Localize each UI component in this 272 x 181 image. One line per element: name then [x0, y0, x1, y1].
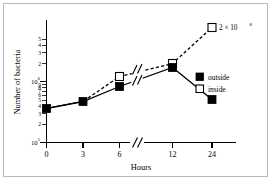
series-line-inside [47, 28, 213, 109]
series-markers-inside [116, 24, 217, 81]
legend-label-outside: outside [208, 73, 230, 82]
legend-entry-inside: inside [196, 85, 226, 94]
x-tick-label-3: 3 [81, 150, 85, 159]
x-axis-title: Hours [131, 163, 151, 172]
x-tick-label-12: 12 [169, 150, 177, 159]
marker-outside-3h [79, 98, 87, 106]
legend-marker-outside [196, 73, 204, 81]
y-axis-minor-ticks-upper [42, 39, 47, 63]
marker-outside-12h [169, 64, 177, 72]
y-decade-exponent-1e6: 6 [38, 76, 41, 81]
x-tick-label-0: 0 [45, 150, 49, 159]
series-break-mark-outside [130, 75, 144, 87]
legend-entry-outside: outside [196, 73, 230, 82]
marker-outside-6h [116, 83, 124, 91]
series-markers-outside [43, 64, 217, 113]
y-decade-exponent-1e5: 5 [38, 137, 41, 142]
x-axis-break-symbol [130, 138, 144, 148]
y-minor-label-3-upper: 3 [38, 50, 41, 56]
annotation-text: 2 × 10 [219, 24, 238, 32]
legend-label-inside: inside [208, 85, 226, 94]
y-minor-label-3: 3 [38, 111, 41, 117]
y-minor-label-2-upper: 2 [38, 61, 41, 67]
chart-legend: outside inside [196, 73, 230, 94]
x-tick-label-24: 24 [208, 150, 216, 159]
marker-inside-6h [116, 73, 124, 81]
y-minor-label-4-upper: 4 [38, 42, 41, 48]
bacteria-growth-chart: 2 3 4 5 6 7 8 9 2 3 4 5 10 5 10 6 [0, 0, 272, 181]
x-axis-tick-labels: 0 3 6 12 24 [45, 150, 217, 159]
y-minor-label-5-upper: 5 [38, 36, 41, 42]
figure-container: 2 3 4 5 6 7 8 9 2 3 4 5 10 5 10 6 [0, 0, 272, 181]
y-minor-label-4: 4 [38, 103, 41, 109]
y-axis-minor-labels-lower: 2 3 4 5 6 7 8 9 [38, 82, 41, 128]
marker-outside-0h [43, 105, 51, 113]
annotation-final-value: 2 × 10 8 [219, 22, 253, 32]
y-axis-decade-label-1e5: 10 5 [31, 137, 41, 146]
y-minor-label-9: 9 [38, 82, 41, 88]
y-axis-title: Number of bacteria [13, 49, 22, 114]
marker-outside-24h [208, 96, 216, 104]
series-break-mark-inside [130, 63, 144, 76]
y-axis-minor-labels-upper: 2 3 4 5 [38, 36, 41, 66]
x-axis-ticks [47, 143, 213, 149]
y-minor-label-2: 2 [38, 121, 41, 127]
marker-inside-24h [208, 24, 216, 32]
annotation-exponent: 8 [250, 22, 253, 27]
legend-marker-inside [196, 85, 204, 93]
series-line-outside [47, 68, 213, 109]
x-tick-label-6: 6 [118, 150, 122, 159]
